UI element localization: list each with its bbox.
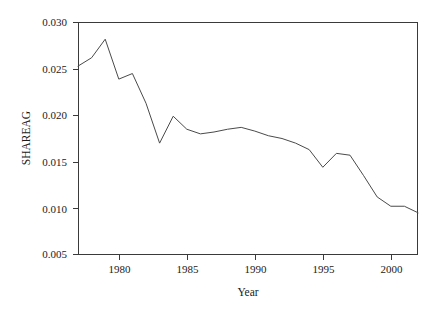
y-tick-label-0030: 0.030 <box>42 16 67 28</box>
chart-figure: 0.030 0.025 0.020 0.015 0.010 0.005 1980… <box>0 0 432 310</box>
y-axis-title: SHAREAG <box>20 111 32 165</box>
x-tick-label-1985: 1985 <box>177 263 200 275</box>
y-tick-label-0020: 0.020 <box>42 109 67 121</box>
shareag-line-chart: 0.030 0.025 0.020 0.015 0.010 0.005 1980… <box>0 0 432 310</box>
y-axis-ticks <box>73 23 79 255</box>
data-series-shareag <box>78 39 418 213</box>
y-tick-label-0025: 0.025 <box>42 63 67 75</box>
x-axis-ticks <box>120 255 392 261</box>
x-tick-label-1980: 1980 <box>109 263 132 275</box>
x-tick-label-1990: 1990 <box>245 263 268 275</box>
y-tick-label-0015: 0.015 <box>42 156 67 168</box>
y-axis-tick-labels: 0.030 0.025 0.020 0.015 0.010 0.005 <box>42 16 67 260</box>
y-tick-label-0005: 0.005 <box>42 248 67 260</box>
x-axis-tick-labels: 1980 1985 1990 1995 2000 <box>109 263 404 275</box>
x-axis-title: Year <box>237 286 258 298</box>
x-tick-label-2000: 2000 <box>381 263 404 275</box>
x-tick-label-1995: 1995 <box>313 263 336 275</box>
y-tick-label-0010: 0.010 <box>42 203 67 215</box>
